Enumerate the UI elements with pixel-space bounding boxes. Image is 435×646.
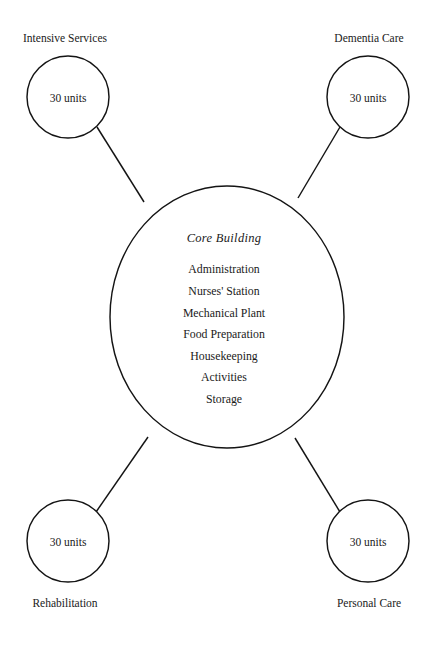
core-item-storage: Storage <box>206 392 242 407</box>
core-item-housekeeping: Housekeeping <box>190 349 258 364</box>
core-item-nurses-station: Nurses' Station <box>188 284 259 299</box>
satellite-units-dementia-care: 30 units <box>350 92 387 104</box>
spoke-core-to-personal-care <box>295 438 340 512</box>
satellite-label-dementia-care: Dementia Care <box>334 32 403 44</box>
core-item-mechanical-plant: Mechanical Plant <box>183 306 265 321</box>
core-item-activities: Activities <box>201 370 247 385</box>
spoke-core-to-dementia-care <box>298 127 340 198</box>
satellite-units-intensive-services: 30 units <box>50 92 87 104</box>
core-item-food-preparation: Food Preparation <box>183 327 265 342</box>
satellite-units-personal-care: 30 units <box>350 536 387 548</box>
satellite-units-rehabilitation: 30 units <box>50 536 87 548</box>
satellite-label-rehabilitation: Rehabilitation <box>32 597 97 609</box>
diagram-canvas: Intensive Services 30 units Dementia Car… <box>0 0 435 646</box>
satellite-label-personal-care: Personal Care <box>337 597 401 609</box>
spoke-core-to-intensive-services <box>97 127 144 202</box>
satellite-label-intensive-services: Intensive Services <box>23 32 107 44</box>
core-item-administration: Administration <box>188 262 259 277</box>
core-building-title: Core Building <box>187 231 262 246</box>
spoke-core-to-rehabilitation <box>96 437 148 512</box>
